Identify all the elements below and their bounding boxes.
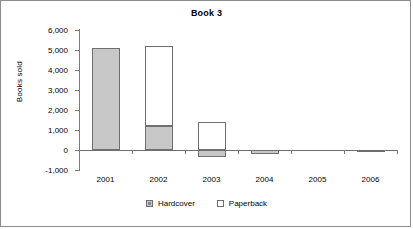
y-axis-tick-label: 6,000 (1, 26, 68, 35)
y-axis-tick-label: 3,000 (1, 86, 68, 95)
white-empty-square-icon (217, 200, 224, 207)
x-axis-tick (344, 150, 345, 154)
y-axis-tick (75, 170, 79, 171)
y-axis-tick (75, 90, 79, 91)
x-axis-tick (291, 150, 292, 154)
bar-paperback[interactable] (198, 122, 226, 150)
x-axis-tick-label: 2002 (150, 175, 168, 184)
bar-hardcover[interactable] (357, 150, 385, 152)
bar-hardcover[interactable] (251, 150, 279, 154)
bar-hardcover[interactable] (92, 48, 120, 150)
legend-item-label: Hardcover (158, 199, 195, 208)
x-axis-tick-label: 2006 (362, 175, 380, 184)
chart-title: Book 3 (1, 8, 412, 18)
x-axis-tick-label: 2005 (309, 175, 327, 184)
bar-paperback[interactable] (145, 46, 173, 126)
x-axis-tick (238, 150, 239, 154)
y-axis-tick-label: 1,000 (1, 126, 68, 135)
legend-item-paperback[interactable]: Paperback (217, 199, 267, 208)
x-axis-tick-label: 2004 (256, 175, 274, 184)
y-axis-tick-label: 0 (1, 146, 68, 155)
y-axis-tick-label: 2,000 (1, 106, 68, 115)
y-axis-tick-label: -1,000 (1, 166, 68, 175)
x-axis-tick-label: 2001 (97, 175, 115, 184)
y-axis-tick (75, 70, 79, 71)
legend-item-label: Paperback (229, 199, 267, 208)
x-axis-tick (397, 150, 398, 154)
y-axis-tick (75, 110, 79, 111)
x-axis-tick (132, 150, 133, 154)
y-axis-tick (75, 50, 79, 51)
y-axis-tick (75, 30, 79, 31)
x-axis-tick-label: 2003 (203, 175, 221, 184)
chart-figure: Book 3 Books sold 6,0005,0004,0003,0002,… (0, 0, 411, 227)
chart-legend: Hardcover Paperback (1, 199, 412, 208)
y-axis-tick-label: 4,000 (1, 66, 68, 75)
x-axis-tick (185, 150, 186, 154)
y-axis-tick-label: 5,000 (1, 46, 68, 55)
gray-filled-square-icon (146, 200, 153, 207)
bar-hardcover[interactable] (145, 126, 173, 150)
legend-item-hardcover[interactable]: Hardcover (146, 199, 195, 208)
x-axis-tick (79, 150, 80, 154)
y-axis-tick (75, 130, 79, 131)
bar-hardcover[interactable] (198, 150, 226, 157)
